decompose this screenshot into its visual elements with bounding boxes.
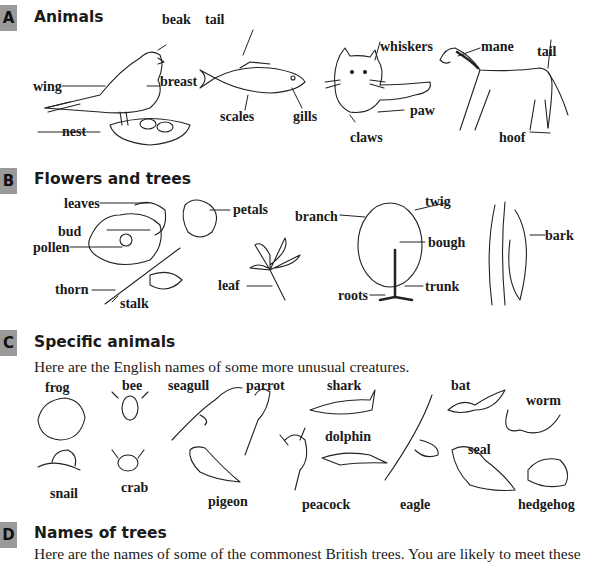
label-frog: frog — [45, 381, 70, 395]
label-peacock: peacock — [302, 498, 350, 512]
frog-illustration — [38, 398, 85, 440]
section-d-intro: Here are the names of some of the common… — [34, 545, 581, 563]
section-badge-a: A — [0, 5, 17, 31]
label-breast: breast — [160, 75, 197, 89]
label-nest: nest — [62, 125, 86, 139]
label-thorn: thorn — [55, 283, 88, 297]
eagle-illustration — [385, 395, 438, 480]
label-leaves: leaves — [64, 197, 100, 211]
parrot-illustration — [245, 389, 270, 455]
label-roots: roots — [338, 289, 368, 303]
crab-illustration — [112, 450, 144, 471]
bird-illustration — [45, 52, 164, 125]
section-title-flowers-and-trees: Flowers and trees — [34, 170, 191, 188]
label-hoof: hoof — [499, 131, 525, 145]
label-twig: twig — [425, 195, 451, 209]
label-bough: bough — [428, 236, 465, 250]
label-leaf: leaf — [218, 279, 240, 293]
section-title-specific-animals: Specific animals — [34, 333, 175, 351]
section-badge-c: C — [0, 330, 17, 356]
label-mane: mane — [481, 40, 514, 54]
pigeon-illustration — [190, 447, 240, 482]
section-c-intro: Here are the English names of some more … — [34, 358, 409, 376]
label-claws: claws — [350, 131, 383, 145]
label-scales: scales — [220, 110, 254, 124]
seagull-illustration — [172, 388, 242, 441]
rose-illustration — [89, 200, 217, 304]
label-tail-fish: tail — [205, 13, 224, 27]
section-badge-d: D — [0, 522, 17, 548]
label-trunk: trunk — [425, 280, 459, 294]
section-title-animals: Animals — [34, 8, 104, 26]
label-crab: crab — [121, 481, 148, 495]
label-beak: beak — [162, 13, 191, 27]
label-worm: worm — [526, 394, 561, 408]
worm-illustration — [506, 410, 560, 433]
label-bat: bat — [451, 379, 470, 393]
label-parrot: parrot — [246, 379, 285, 393]
label-bark: bark — [545, 229, 574, 243]
label-petals: petals — [233, 203, 268, 217]
label-bee: bee — [122, 379, 142, 393]
label-eagle: eagle — [400, 498, 430, 512]
bee-illustration — [112, 392, 148, 420]
dolphin-illustration — [322, 453, 387, 465]
peacock-illustration — [280, 428, 307, 490]
hedgehog-illustration — [528, 459, 568, 487]
bat-illustration — [448, 390, 505, 413]
label-gills: gills — [293, 110, 317, 124]
shark-illustration — [310, 390, 375, 414]
label-whiskers: whiskers — [380, 40, 433, 54]
label-branch: branch — [295, 210, 338, 224]
label-seal: seal — [468, 443, 491, 457]
tree-illustration — [358, 203, 422, 300]
label-stalk: stalk — [120, 297, 149, 311]
label-pigeon: pigeon — [208, 495, 248, 509]
section-badge-b: B — [0, 168, 17, 194]
label-snail: snail — [50, 487, 78, 501]
section-title-names-of-trees: Names of trees — [34, 524, 167, 542]
label-wing: wing — [33, 80, 62, 94]
leaf-illustration — [250, 238, 300, 300]
horse-illustration — [440, 48, 568, 130]
label-pollen: pollen — [33, 241, 70, 255]
label-seagull: seagull — [168, 379, 209, 393]
nest-illustration — [110, 119, 190, 146]
snail-illustration — [38, 450, 80, 470]
label-shark: shark — [327, 379, 361, 393]
bark-illustration — [489, 202, 526, 305]
label-hedgehog: hedgehog — [518, 498, 575, 512]
label-dolphin: dolphin — [325, 430, 371, 444]
label-tail-horse: tail — [537, 45, 556, 59]
fish-illustration — [200, 62, 305, 93]
label-paw: paw — [410, 104, 435, 118]
label-bud: bud — [58, 225, 81, 239]
